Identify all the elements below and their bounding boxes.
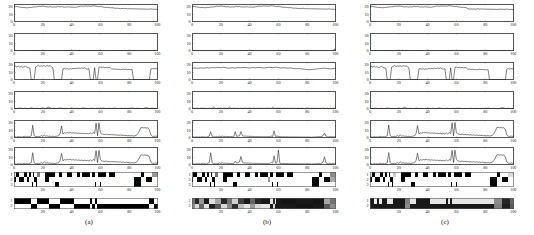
raster-cell <box>90 177 95 182</box>
panel-b-1: 01020020406080100 <box>192 4 336 22</box>
raster-cell <box>370 182 388 187</box>
raster-cell <box>45 172 55 177</box>
x-tick-label: 20 <box>397 166 401 170</box>
raster-cell <box>393 198 405 204</box>
plot-canvas <box>370 120 514 138</box>
x-tick-label: 0 <box>191 52 193 56</box>
raster-cell <box>389 172 391 177</box>
raster-cell <box>223 177 227 182</box>
x-tick-label: 100 <box>332 139 338 143</box>
raster-cell <box>494 198 503 204</box>
plot-canvas <box>14 4 158 22</box>
raster-cell <box>462 172 465 177</box>
raster-cell <box>450 204 452 210</box>
x-tick-label: 60 <box>454 110 458 114</box>
x-tick-label: 60 <box>454 166 458 170</box>
x-tick-label: 20 <box>397 210 401 214</box>
x-tick-label: 100 <box>510 166 516 170</box>
raster-cell <box>375 177 380 182</box>
plot-canvas <box>14 91 158 109</box>
panel-b-3: 01020020406080100 <box>192 62 336 80</box>
raster-cell <box>454 204 494 210</box>
raster-cell <box>59 177 72 182</box>
raster-cell <box>215 177 223 182</box>
x-tick-label: 80 <box>483 52 487 56</box>
panel-b-2: 01020020406080100 <box>192 33 336 51</box>
raster-cell <box>29 177 33 182</box>
x-tick-label: 40 <box>70 110 74 114</box>
x-tick-label: 60 <box>98 210 102 214</box>
raster-cell <box>377 204 379 210</box>
figure-root: 0102002040608010001020020406080100010200… <box>0 0 534 235</box>
x-tick-label: 40 <box>248 139 252 143</box>
raster-cell <box>98 177 115 182</box>
x-tick-label: 60 <box>276 188 280 192</box>
raster-cell <box>272 182 273 187</box>
x-tick-label: 20 <box>219 81 223 85</box>
raster-cell <box>322 172 330 177</box>
raster-cell <box>74 204 89 210</box>
x-tick-label: 40 <box>426 23 430 27</box>
raster-cell <box>451 172 453 177</box>
raster-cell <box>82 177 91 182</box>
y-tick-label: 20 <box>364 5 368 9</box>
raster-cell <box>55 172 59 177</box>
data-series-line <box>14 123 158 137</box>
raster-cell <box>387 198 393 204</box>
raster-cell <box>212 177 215 182</box>
x-tick-label: 60 <box>454 23 458 27</box>
raster-cell <box>410 198 416 204</box>
x-tick-label: 60 <box>98 139 102 143</box>
raster-cell <box>497 172 500 177</box>
raster-cell <box>380 172 383 177</box>
figure-column-a: 0102002040608010001020020406080100010200… <box>0 0 178 235</box>
y-tick-label: 10 <box>364 12 368 16</box>
raster-cell <box>211 177 213 182</box>
raster-cell <box>95 198 97 204</box>
raster-cell <box>49 198 61 204</box>
raster-cell <box>284 172 287 177</box>
raster-cell <box>383 177 385 182</box>
x-tick-label: 60 <box>98 110 102 114</box>
raster-cell <box>14 204 31 210</box>
raster-cell <box>393 172 396 177</box>
raster-cell <box>55 182 59 187</box>
x-tick-label: 40 <box>426 81 430 85</box>
raster-cell <box>330 177 336 182</box>
raster-cell <box>372 172 375 177</box>
y-tick-label: 20 <box>364 63 368 67</box>
raster-cell <box>204 204 210 210</box>
y-tick-label: 20 <box>8 121 12 125</box>
raster-cell <box>379 198 381 204</box>
x-tick-label: 40 <box>70 188 74 192</box>
x-tick-label: 80 <box>127 188 131 192</box>
y-tick-label: 10 <box>8 41 12 45</box>
raster-cell <box>199 204 203 210</box>
data-series-line <box>192 49 336 51</box>
x-tick-label: 40 <box>248 81 252 85</box>
x-tick-label: 20 <box>41 23 45 27</box>
raster-cell <box>40 172 45 177</box>
raster-cell <box>293 172 319 177</box>
x-tick-label: 60 <box>276 210 280 214</box>
y-tick-label: 20 <box>364 34 368 38</box>
raster-cell <box>31 204 37 210</box>
raster-cell <box>19 177 24 182</box>
raster-cell <box>433 172 437 177</box>
raster-cell <box>370 198 374 204</box>
x-tick-label: 80 <box>127 52 131 56</box>
column-caption: (c) <box>356 218 534 226</box>
y-tick-label: 10 <box>364 155 368 159</box>
column-caption: (b) <box>178 218 356 226</box>
y-tick-label: 20 <box>8 34 12 38</box>
raster-cell <box>313 204 325 210</box>
y-tick-label: 10 <box>8 128 12 132</box>
panel-a-6: 01020020406080100 <box>14 147 158 165</box>
raster-cell <box>330 198 336 204</box>
data-series-line <box>14 107 158 109</box>
x-tick-label: 100 <box>332 52 338 56</box>
x-tick-label: 60 <box>98 23 102 27</box>
panel-b-7: 12320406080100 <box>192 172 336 187</box>
raster-row-label: 3 <box>188 182 190 186</box>
x-tick-label: 0 <box>13 139 15 143</box>
